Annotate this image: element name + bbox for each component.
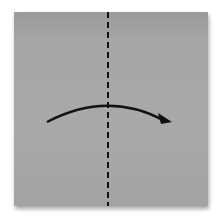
fold-diagram bbox=[0, 0, 219, 218]
fold-arrow bbox=[47, 106, 165, 122]
arrow-head-icon bbox=[158, 113, 172, 124]
